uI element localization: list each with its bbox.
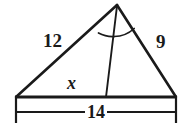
label-base-total-length: 14	[85, 103, 107, 121]
apex-left-angle-arc	[99, 33, 115, 37]
label-right-side-length: 9	[156, 32, 166, 51]
triangle-right-side	[117, 5, 176, 97]
label-left-side-length: 12	[43, 31, 62, 50]
apex-right-angle-arc	[114, 29, 134, 37]
angle-bisector-line	[106, 6, 117, 97]
geometry-figure: 12 9 x 14	[0, 0, 191, 132]
label-base-segment-x: x	[67, 74, 76, 92]
